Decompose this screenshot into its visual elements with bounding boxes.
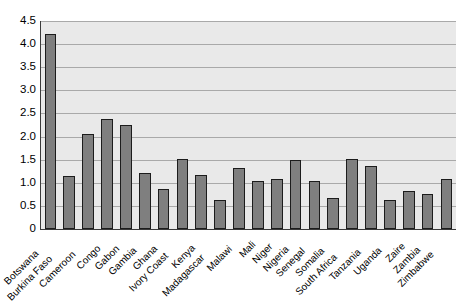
bar-slot <box>41 21 60 229</box>
bar-slot <box>98 21 117 229</box>
plot-area <box>40 21 456 230</box>
bar-slot <box>116 21 135 229</box>
y-axis-tick-label: 2.5 <box>20 108 36 120</box>
y-axis-tick-label: 1.0 <box>20 177 36 189</box>
bar[interactable] <box>45 34 57 229</box>
y-axis-tick-label: 0 <box>30 223 36 235</box>
bar-slot <box>267 21 286 229</box>
bar[interactable] <box>177 159 189 229</box>
bar-slot <box>173 21 192 229</box>
bar[interactable] <box>422 194 434 229</box>
bar[interactable] <box>139 173 151 229</box>
y-axis-tick-label: 4.0 <box>20 38 36 50</box>
y-axis-tick-label: 3.0 <box>20 85 36 97</box>
bar-slot <box>324 21 343 229</box>
x-axis-tick: Zimbabwe <box>436 231 455 294</box>
bar[interactable] <box>441 179 453 229</box>
bar-slot <box>305 21 324 229</box>
bar-slot <box>286 21 305 229</box>
bar-slot <box>211 21 230 229</box>
bar-slot <box>343 21 362 229</box>
bar[interactable] <box>120 125 132 229</box>
bar-slot <box>399 21 418 229</box>
bar-slot <box>192 21 211 229</box>
bar-slot <box>418 21 437 229</box>
bar-slot <box>362 21 381 229</box>
bar[interactable] <box>214 200 226 229</box>
bar[interactable] <box>346 159 358 229</box>
y-axis-tick-label: 0.5 <box>20 200 36 212</box>
y-axis-tick-label: 2.0 <box>20 131 36 143</box>
y-axis-tick-label: 3.5 <box>20 61 36 73</box>
bar[interactable] <box>252 181 264 229</box>
bar[interactable] <box>290 160 302 229</box>
x-axis: BotswanaBurkina FasoCameroonCongoGabonGa… <box>40 231 455 294</box>
bar-slot <box>60 21 79 229</box>
x-axis-tick: Malawi <box>229 231 248 294</box>
bar[interactable] <box>309 181 321 229</box>
bar-slot <box>135 21 154 229</box>
bar[interactable] <box>271 179 283 229</box>
bar-slot <box>154 21 173 229</box>
bar-slot <box>248 21 267 229</box>
bar-slot <box>230 21 249 229</box>
bar[interactable] <box>101 119 113 229</box>
bar-slot <box>79 21 98 229</box>
bar-slot <box>437 21 456 229</box>
y-axis-tick-label: 4.5 <box>20 15 36 27</box>
y-axis-tick-label: 1.5 <box>20 154 36 166</box>
bars-layer <box>41 21 456 229</box>
bar-slot <box>380 21 399 229</box>
